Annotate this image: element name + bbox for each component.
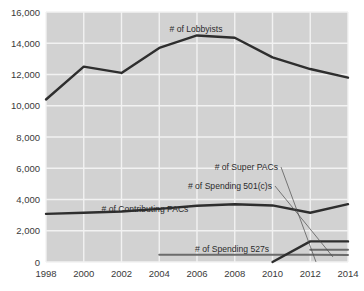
line-chart: 02,0004,0006,0008,00010,00012,00014,0001…	[0, 0, 364, 291]
x-axis-tick-label: 2006	[186, 268, 207, 279]
x-axis-tick-label: 2004	[149, 268, 170, 279]
annotation-spending-527: # of Spending 527s	[195, 244, 269, 254]
y-axis-tick-label: 12,000	[11, 69, 40, 80]
annotation-lobbyists: # of Lobbyists	[169, 24, 222, 34]
x-axis-tick-label: 2010	[262, 268, 283, 279]
y-axis-tick-label: 8,000	[16, 132, 40, 143]
annotation-spending-501c: # of Spending 501(c)s	[188, 181, 272, 191]
y-axis-tick-label: 16,000	[11, 7, 40, 18]
y-axis-tick-label: 10,000	[11, 100, 40, 111]
x-axis-tick-labels: 199820002002200420062008201020122014	[35, 268, 358, 279]
chart-canvas: 02,0004,0006,0008,00010,00012,00014,0001…	[0, 0, 364, 291]
y-axis-tick-label: 0	[35, 257, 40, 268]
y-axis-tick-label: 14,000	[11, 38, 40, 49]
y-axis-tick-labels: 02,0004,0006,0008,00010,00012,00014,0001…	[11, 7, 40, 268]
x-axis-tick-label: 2002	[111, 268, 132, 279]
y-axis-tick-label: 6,000	[16, 163, 40, 174]
x-axis-tick-label: 2014	[337, 268, 358, 279]
annotation-super-pacs: # of Super PACs	[215, 162, 278, 172]
x-axis-tick-label: 2012	[300, 268, 321, 279]
x-axis-tick-label: 2000	[73, 268, 94, 279]
y-axis-tick-label: 4,000	[16, 194, 40, 205]
x-axis-tick-label: 2008	[224, 268, 245, 279]
x-axis-tick-label: 1998	[35, 268, 56, 279]
y-axis-tick-label: 2,000	[16, 225, 40, 236]
annotation-contributing-pacs: # of Contributing PACs	[102, 204, 189, 214]
